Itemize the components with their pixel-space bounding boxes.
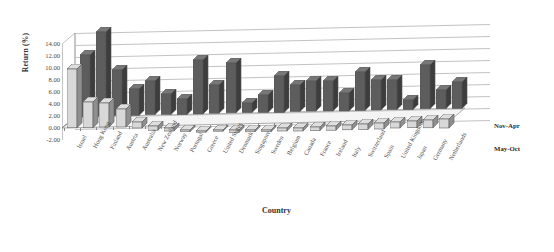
legend-entry-may-oct: May-Oct [494, 145, 520, 152]
x-tick-label: Greece [205, 134, 220, 153]
x-tick-label: Norway [172, 131, 188, 152]
x-tick-label: Austria [124, 131, 139, 151]
x-axis-tick-labels: IsraelHong KongFinlandAustriaAustraliaNe… [0, 0, 554, 252]
x-tick-label: Italy [350, 145, 362, 158]
x-tick-label: Australia [140, 128, 157, 152]
x-tick-label: Portugal [188, 131, 204, 153]
x-tick-label: Canada [302, 137, 317, 157]
x-tick-label: Netherlands [447, 131, 467, 161]
chart-figure: Return (%) Country 14.0012.0010.008.006.… [0, 0, 554, 252]
x-tick-label: Ireland [334, 139, 349, 158]
x-tick-label: Finland [108, 130, 123, 150]
x-tick-label: Israel [75, 134, 88, 150]
x-tick-label: Sweden [269, 135, 285, 156]
x-tick-label: Spain [382, 143, 395, 159]
x-tick-label: Japan [415, 144, 428, 160]
x-tick-label: France [318, 139, 332, 157]
x-tick-label: Denmark [237, 131, 254, 155]
x-tick-label: Belgium [285, 134, 301, 156]
legend-entry-nov-apr: Nov-Apr [494, 122, 520, 129]
x-tick-label: Germany [431, 137, 448, 161]
